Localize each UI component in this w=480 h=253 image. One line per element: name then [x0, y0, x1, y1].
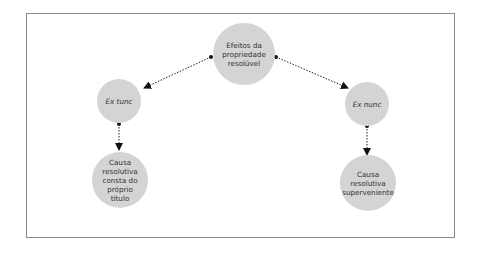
left-child-label: Causa resolutiva consta do próprio títul… — [100, 158, 140, 203]
ex-nunc-node: Ex nunc — [345, 82, 389, 126]
connector-root-right — [274, 55, 348, 88]
connector-right-child — [365, 124, 369, 155]
ex-nunc-label: Ex nunc — [353, 100, 382, 109]
connector-left-child — [117, 122, 121, 150]
root-node: Efeitos da propriedade resolúvel — [213, 23, 275, 85]
ex-tunc-label: Ex tunc — [106, 97, 133, 106]
ex-tunc-node: Ex tunc — [97, 79, 141, 123]
root-label: Efeitos da propriedade resolúvel — [218, 41, 270, 68]
right-child-node: Causa resolutiva superveniente — [340, 155, 396, 211]
left-child-node: Causa resolutiva consta do próprio títul… — [92, 152, 148, 208]
connector-root-left — [144, 55, 213, 88]
right-child-label: Causa resolutiva superveniente — [342, 170, 394, 197]
